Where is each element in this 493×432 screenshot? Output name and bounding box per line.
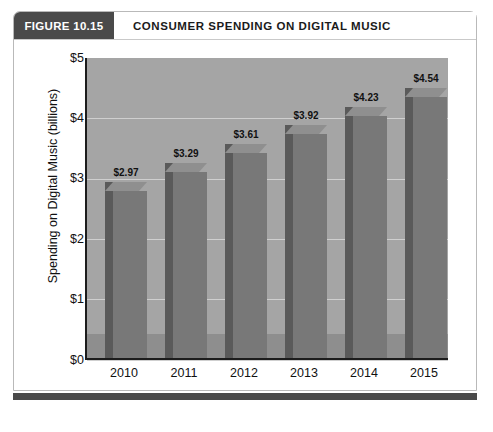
figure-number-text: FIGURE 10.15: [24, 20, 103, 32]
bar-value-label: $3.29: [156, 148, 216, 159]
bar-column: $3.61: [225, 144, 267, 358]
bar-column: $4.23: [345, 107, 387, 358]
plot-area: $2.97$3.29$3.61$3.92$4.23$4.54: [85, 58, 448, 360]
bar-side-face: [285, 125, 293, 358]
y-tick-label: $1: [58, 292, 84, 306]
bar-front-face: [353, 116, 387, 358]
x-tick-label: 2011: [154, 366, 214, 380]
x-tick-label: 2012: [214, 366, 274, 380]
bar-side-face: [225, 144, 233, 358]
bottom-rule: [13, 393, 477, 400]
bar-column: $3.29: [165, 163, 207, 358]
figure-title-text: CONSUMER SPENDING ON DIGITAL MUSIC: [133, 20, 391, 32]
y-axis-tick-labels: $5 $4 $3 $2 $1 $0: [56, 41, 84, 390]
bar-value-label: $2.97: [96, 167, 156, 178]
figure-title-bar: CONSUMER SPENDING ON DIGITAL MUSIC: [114, 12, 476, 39]
bar-side-face: [405, 88, 413, 358]
bar-value-label: $3.92: [276, 110, 336, 121]
bar-front-face: [173, 172, 207, 358]
bars-layer: $2.97$3.29$3.61$3.92$4.23$4.54: [87, 58, 448, 358]
x-tick-label: 2014: [334, 366, 394, 380]
bar-side-face: [105, 182, 113, 358]
figure-number-badge: FIGURE 10.15: [14, 12, 114, 39]
bar-front-face: [113, 191, 147, 358]
y-tick-label: $2: [58, 232, 84, 246]
bar-front-face: [233, 153, 267, 358]
gridline: [87, 360, 448, 361]
bar-value-label: $4.54: [396, 73, 456, 84]
bar-column: $4.54: [405, 88, 447, 358]
bar-value-label: $4.23: [336, 92, 396, 103]
x-tick-label: 2010: [94, 366, 154, 380]
figure-frame: FIGURE 10.15 CONSUMER SPENDING ON DIGITA…: [13, 11, 477, 391]
bar-side-face: [345, 107, 353, 358]
x-tick-label: 2013: [274, 366, 334, 380]
bar-column: $2.97: [105, 182, 147, 358]
bar-column: $3.92: [285, 125, 327, 358]
y-tick-label: $5: [58, 51, 84, 65]
y-tick-label: $0: [58, 353, 84, 367]
bar-front-face: [293, 134, 327, 358]
y-tick-label: $3: [58, 171, 84, 185]
y-tick-label: $4: [58, 111, 84, 125]
bar-value-label: $3.61: [216, 129, 276, 140]
x-axis-tick-labels: 201020112012201320142015: [85, 366, 448, 390]
chart-area: Spending on Digital Music (billions) $5 …: [14, 41, 476, 390]
bar-side-face: [165, 163, 173, 358]
x-tick-label: 2015: [394, 366, 454, 380]
figure-header: FIGURE 10.15 CONSUMER SPENDING ON DIGITA…: [14, 12, 476, 40]
bar-front-face: [413, 97, 447, 358]
